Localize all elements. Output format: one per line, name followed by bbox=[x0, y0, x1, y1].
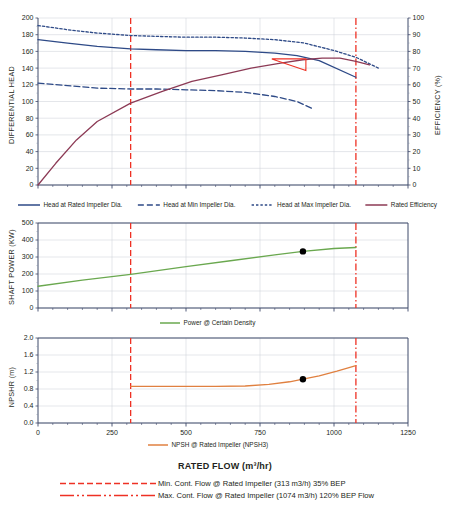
min-cont-flow-legend-row: Min. Cont. Flow @ Rated Impeller (313 m3… bbox=[60, 479, 390, 488]
min-cont-flow-label: Min. Cont. Flow @ Rated Impeller (313 m3… bbox=[158, 479, 346, 488]
npsh-chart-markers bbox=[300, 376, 306, 382]
shaft-power-chart: 0100200300400500 SHAFT POWER (KW) Power … bbox=[0, 215, 450, 330]
min-cont-flow-line-key bbox=[60, 479, 158, 488]
npsh-chart-series bbox=[131, 366, 356, 387]
npsh-chart-ticks bbox=[36, 338, 409, 427]
y2-tick-label: 30 bbox=[413, 131, 421, 138]
legend-label-0: Power @ Certain Density bbox=[184, 319, 257, 327]
y2-tick-label: 0 bbox=[413, 181, 417, 188]
chart-footer: RATED FLOW (m³/hr) Min. Cont. Flow @ Rat… bbox=[0, 455, 450, 511]
npsh-chart-x-tick-labels: 025050075010001250 bbox=[36, 429, 416, 436]
y-tick-label: 0 bbox=[30, 304, 34, 311]
head-efficiency-chart-panel: 020406080100120140160180200 010203040506… bbox=[0, 0, 450, 215]
power-chart-frame bbox=[38, 223, 408, 308]
y-tick-label: 120 bbox=[22, 81, 34, 88]
npsh-chart-y-axis-title: NPSHR (m) bbox=[7, 367, 16, 408]
legend-label-0: Head at Rated Impeller Dia. bbox=[44, 201, 123, 209]
max-cont-flow-line-key bbox=[60, 491, 158, 500]
series-line-2 bbox=[38, 26, 378, 69]
series-line-3 bbox=[38, 58, 370, 185]
x-tick-label: 0 bbox=[36, 429, 40, 436]
y-tick-label: 1.2 bbox=[24, 368, 34, 375]
power-chart-gridlines bbox=[38, 223, 408, 308]
legend-label-3: Rated Efficiency bbox=[391, 201, 438, 209]
npsh-chart-reference-lines bbox=[131, 338, 356, 423]
head-chart-gridlines bbox=[38, 18, 408, 185]
head-chart-y-tick-labels: 020406080100120140160180200 bbox=[22, 14, 34, 188]
npsh-chart-frame bbox=[38, 338, 408, 423]
shaft-power-chart-panel: 0100200300400500 SHAFT POWER (KW) Power … bbox=[0, 215, 450, 330]
power-chart-series bbox=[38, 247, 356, 286]
legend-label-0: NPSH @ Rated Impeller (NPSH3) bbox=[172, 441, 269, 449]
y-tick-label: 200 bbox=[22, 270, 34, 277]
y-tick-label: 140 bbox=[22, 65, 34, 72]
y-tick-label: 100 bbox=[22, 98, 34, 105]
x-tick-label: 500 bbox=[180, 429, 192, 436]
y2-tick-label: 60 bbox=[413, 81, 421, 88]
y-tick-label: 0 bbox=[30, 181, 34, 188]
power-chart-y-tick-labels: 0100200300400500 bbox=[22, 219, 34, 311]
head-chart-y2-axis-title: EFFICIENCY (%) bbox=[433, 75, 442, 135]
y-tick-label: 60 bbox=[26, 131, 34, 138]
y-tick-label: 40 bbox=[26, 148, 34, 155]
y2-tick-label: 10 bbox=[413, 165, 421, 172]
y-tick-label: 200 bbox=[22, 14, 34, 21]
pump-performance-curve-sheet: 020406080100120140160180200 010203040506… bbox=[0, 0, 450, 511]
legend-label-1: Head at Min Impeller Dia. bbox=[163, 201, 235, 209]
series-line-0 bbox=[38, 247, 356, 286]
y-tick-label: 300 bbox=[22, 253, 34, 260]
x-tick-label: 250 bbox=[106, 429, 118, 436]
y-tick-label: 160 bbox=[22, 48, 34, 55]
y-tick-label: 80 bbox=[26, 115, 34, 122]
npshr-chart-panel: 0.00.40.81.21.62.0 025050075010001250 NP… bbox=[0, 330, 450, 455]
y2-tick-label: 90 bbox=[413, 31, 421, 38]
y2-tick-label: 20 bbox=[413, 148, 421, 155]
y-tick-label: 0.4 bbox=[24, 402, 34, 409]
head-chart-legend: Head at Rated Impeller Dia.Head at Min I… bbox=[18, 201, 438, 209]
power-chart-legend: Power @ Certain Density bbox=[160, 319, 256, 327]
legend-label-2: Head at Max Impeller Dia. bbox=[277, 201, 351, 209]
head-chart-series bbox=[38, 26, 378, 185]
series-line-0 bbox=[38, 40, 356, 78]
y-tick-label: 100 bbox=[22, 287, 34, 294]
y-tick-label: 2.0 bbox=[24, 334, 34, 341]
npsh-chart-gridlines bbox=[38, 338, 408, 423]
y2-tick-label: 80 bbox=[413, 48, 421, 55]
marker-rated-point bbox=[300, 376, 306, 382]
y-tick-label: 1.6 bbox=[24, 351, 34, 358]
y-tick-label: 0.0 bbox=[24, 419, 34, 426]
y2-tick-label: 50 bbox=[413, 98, 421, 105]
power-chart-y-axis-title: SHAFT POWER (KW) bbox=[7, 229, 16, 305]
y2-tick-label: 100 bbox=[413, 14, 425, 21]
y-tick-label: 500 bbox=[22, 219, 34, 226]
series-line-0 bbox=[131, 366, 356, 387]
power-chart-reference-lines bbox=[131, 223, 356, 308]
head-chart-ticks bbox=[36, 18, 411, 189]
head-chart-y2-tick-labels: 0102030405060708090100 bbox=[413, 14, 425, 188]
marker-rated-point bbox=[300, 248, 306, 254]
x-tick-label: 1250 bbox=[400, 429, 416, 436]
npsh-chart-y-tick-labels: 0.00.40.81.21.62.0 bbox=[24, 334, 34, 426]
head-chart-y-axis-title: DIFFERENTIAL HEAD bbox=[7, 66, 16, 144]
y-tick-label: 400 bbox=[22, 236, 34, 243]
npshr-chart: 0.00.40.81.21.62.0 025050075010001250 NP… bbox=[0, 330, 450, 455]
y2-tick-label: 40 bbox=[413, 115, 421, 122]
x-tick-label: 750 bbox=[254, 429, 266, 436]
x-axis-title: RATED FLOW (m³/hr) bbox=[0, 455, 450, 471]
y-tick-label: 20 bbox=[26, 165, 34, 172]
y-tick-label: 180 bbox=[22, 31, 34, 38]
power-chart-ticks bbox=[36, 223, 409, 312]
y-tick-label: 0.8 bbox=[24, 385, 34, 392]
max-cont-flow-legend-row: Max. Cont. Flow @ Rated Impeller (1074 m… bbox=[60, 491, 390, 500]
power-chart-markers bbox=[300, 248, 306, 254]
max-cont-flow-label: Max. Cont. Flow @ Rated Impeller (1074 m… bbox=[158, 491, 374, 500]
npsh-chart-legend: NPSH @ Rated Impeller (NPSH3) bbox=[148, 441, 268, 449]
x-tick-label: 1000 bbox=[326, 429, 342, 436]
head-efficiency-chart: 020406080100120140160180200 010203040506… bbox=[0, 0, 450, 215]
y2-tick-label: 70 bbox=[413, 65, 421, 72]
